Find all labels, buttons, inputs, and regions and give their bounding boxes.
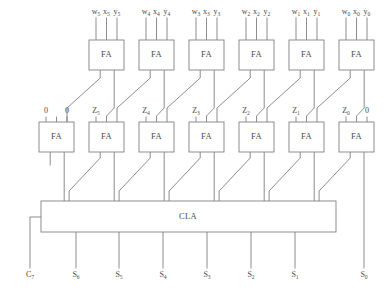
top-fa-label-0: FA	[351, 49, 362, 59]
carry-wire-row2-to-cla-2	[119, 152, 150, 201]
input-label-y4: y4	[164, 7, 171, 17]
output-label-S0: S0	[360, 270, 367, 280]
output-label-C7: C7	[26, 270, 34, 280]
carry-wire-row2-to-cla-4	[219, 152, 250, 201]
top-fa-label-3: FA	[201, 49, 212, 59]
input-label-Z2-row2-4: Z2	[242, 106, 250, 116]
input-label-w2: w2	[242, 7, 251, 17]
input-label-w0: w0	[342, 7, 351, 17]
input-label-x5: x5	[103, 7, 110, 17]
input-label-x1: x1	[303, 7, 310, 17]
input-label-y3: y3	[214, 7, 221, 17]
input-label-x4: x4	[153, 7, 160, 17]
output-label-S2: S2	[247, 270, 254, 280]
input-label-Z4-row2-2: Z4	[142, 106, 150, 116]
carry-wire-row2-to-cla-6	[319, 152, 350, 201]
input-label-y5: y5	[114, 7, 121, 17]
row2-fa-label-6: FA	[351, 131, 362, 141]
sum-wire-from-top-fa-0	[357, 70, 365, 122]
input-label-Z3-row2-3: Z3	[192, 106, 200, 116]
input-label-0-row2-0: 0	[44, 106, 48, 115]
output-label-S3: S3	[203, 270, 210, 280]
row2-fa-label-1: FA	[101, 131, 112, 141]
row2-fa-label-3: FA	[201, 131, 212, 141]
diagram-canvas: w5x5y5FAw4x4y4FAw3x3y3FAw2x2y2FAw1x1y1FA…	[0, 0, 391, 304]
output-label-S1: S1	[291, 270, 298, 280]
input-label-y2: y2	[264, 7, 271, 17]
input-label-w1: w1	[292, 7, 301, 17]
sum-wire-from-top-fa-3	[207, 70, 215, 122]
carry-save-adder-diagram: w5x5y5FAw4x4y4FAw3x3y3FAw2x2y2FAw1x1y1FA…	[0, 0, 391, 304]
top-fa-label-5: FA	[101, 49, 112, 59]
sum-wire-from-top-fa-1	[307, 70, 315, 122]
carry-out-wire	[30, 217, 41, 268]
input-label-x0: x0	[353, 7, 360, 17]
input-label-w3: w3	[192, 7, 201, 17]
output-label-S4: S4	[159, 270, 166, 280]
row2-fa-label-5: FA	[301, 131, 312, 141]
input-label-w4: w4	[142, 7, 151, 17]
input-label-Z5-row2-1: Z5	[92, 106, 100, 116]
row2-fa-label-4: FA	[251, 131, 262, 141]
top-fa-label-2: FA	[251, 49, 262, 59]
output-label-S5: S5	[115, 270, 122, 280]
input-label-w5: w5	[92, 7, 101, 17]
input-label-Z0-row2-6: Z0	[342, 106, 350, 116]
carry-wire-row2-to-cla-3	[169, 152, 200, 201]
input-label-x3: x3	[203, 7, 210, 17]
sum-wire-from-top-fa-5	[107, 70, 115, 122]
carry-wire-row2-to-cla-1	[69, 152, 100, 201]
input-label-y0: y0	[364, 7, 371, 17]
input-label-const-zero-row2-0: 0	[65, 106, 69, 115]
output-label-S6: S6	[72, 270, 79, 280]
top-fa-label-1: FA	[301, 49, 312, 59]
sum-wire-from-top-fa-2	[257, 70, 265, 122]
row2-fa-label-0: FA	[51, 131, 62, 141]
input-label-y1: y1	[314, 7, 321, 17]
top-fa-label-4: FA	[151, 49, 162, 59]
row2-fa-label-2: FA	[151, 131, 162, 141]
input-label-x2: x2	[253, 7, 260, 17]
sum-wire-from-top-fa-4	[157, 70, 165, 122]
input-label-const-zero-row2-6: 0	[365, 106, 369, 115]
cla-label: CLA	[179, 211, 197, 221]
input-label-Z1-row2-5: Z1	[292, 106, 300, 116]
carry-wire-row2-to-cla-5	[269, 152, 300, 201]
